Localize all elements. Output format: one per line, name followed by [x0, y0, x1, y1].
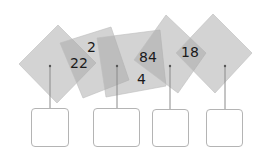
answer-box-2[interactable]	[93, 108, 140, 147]
connector-dot-2	[116, 65, 118, 67]
connector-dot-4	[224, 65, 226, 67]
connector-dot-1	[49, 65, 51, 67]
answer-box-3[interactable]	[152, 109, 189, 147]
shape-2-label-bottom: 22	[70, 56, 88, 70]
connector-dot-3	[169, 65, 171, 67]
shape-3-label-bottom: 4	[137, 72, 146, 86]
answer-box-1[interactable]	[31, 108, 69, 147]
shape-3-label-top: 84	[139, 50, 157, 64]
shape-2-label-top: 2	[87, 40, 96, 54]
answer-box-4[interactable]	[206, 109, 243, 147]
shape-4-label: 18	[181, 45, 199, 59]
